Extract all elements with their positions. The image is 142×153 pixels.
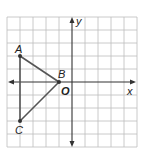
x-axis-arrow-left-icon: [8, 80, 14, 85]
point-b: [57, 80, 61, 84]
segment-bc: [20, 82, 59, 121]
x-axis-label: x: [126, 85, 133, 97]
origin-label: O: [61, 85, 70, 97]
x-axis-arrow-right-icon: [130, 80, 136, 85]
point-c: [18, 119, 22, 123]
label-c: C: [15, 124, 23, 136]
axes: [10, 20, 134, 145]
triangle-abc: [20, 56, 59, 121]
vertices: [18, 54, 61, 123]
label-a: A: [14, 43, 22, 55]
y-axis-arrow-down-icon: [70, 141, 75, 147]
label-b: B: [58, 68, 65, 80]
y-axis-arrow-up-icon: [70, 17, 75, 23]
coordinate-plane: A B C O x y: [0, 0, 142, 153]
